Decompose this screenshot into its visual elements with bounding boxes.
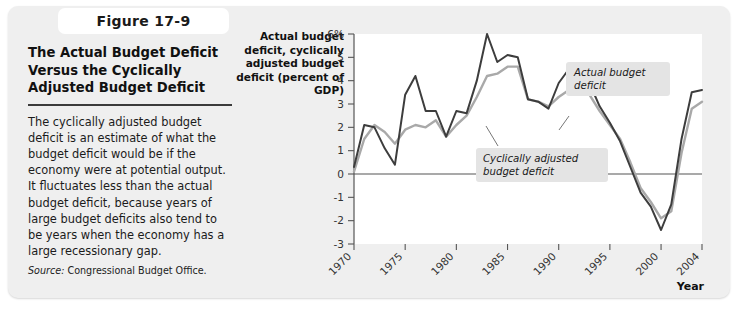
x-axis-tick-label: 1970 (326, 250, 353, 277)
source-label: Source: (28, 265, 64, 276)
figure-number-tab: Figure 17-9 (58, 8, 229, 34)
figure-description: The cyclically adjusted budget deficit i… (28, 114, 234, 260)
y-axis-tick-label: 6% (327, 28, 344, 40)
annotation-actual-line2: deficit (574, 80, 607, 91)
y-axis-tick-label: -2 (334, 214, 344, 226)
y-axis-tick-label: 0 (337, 168, 344, 180)
y-axis-tick-label: 5 (337, 51, 344, 63)
y-axis-tick-label: 1 (337, 144, 344, 156)
x-axis-tick-label: 1975 (377, 250, 404, 277)
chart-area: Actual budget deficit, cyclically adjust… (236, 18, 728, 290)
x-axis-tick-label: 1985 (480, 250, 507, 277)
x-axis-tick-label: 2004 (674, 250, 702, 278)
annotation-cyclical-line2: budget deficit (483, 166, 555, 177)
x-axis-tick-label: 1980 (428, 250, 455, 277)
x-axis-tick-label: 1990 (531, 250, 558, 277)
x-axis-title: Year (676, 280, 705, 290)
y-axis-tick-label: 2 (337, 121, 344, 133)
y-axis-tick-label: -3 (334, 238, 344, 250)
figure-number-label: Figure 17-9 (97, 13, 191, 29)
figure-container: Figure 17-9 The Actual Budget Deficit Ve… (0, 0, 744, 315)
annotation-cyclical-line1: Cyclically adjusted (483, 153, 579, 164)
source-text: Congressional Budget Office. (67, 265, 206, 276)
figure-source: Source: Congressional Budget Office. (28, 265, 234, 277)
y-axis-tick-label: 4 (337, 74, 344, 86)
x-axis-tick-label: 2000 (633, 250, 660, 277)
y-axis-tick-label: 3 (337, 98, 344, 110)
y-axis-tick-label: -1 (334, 191, 344, 203)
figure-text-panel: The Actual Budget Deficit Versus the Cyc… (28, 44, 234, 278)
annotation-actual-line1: Actual budget (573, 67, 646, 78)
line-chart-svg: 6%543210-1-2-319701975198019851990199520… (236, 18, 728, 290)
x-axis-tick-label: 1995 (582, 250, 609, 277)
title-divider (28, 104, 232, 106)
figure-title: The Actual Budget Deficit Versus the Cyc… (28, 44, 234, 97)
